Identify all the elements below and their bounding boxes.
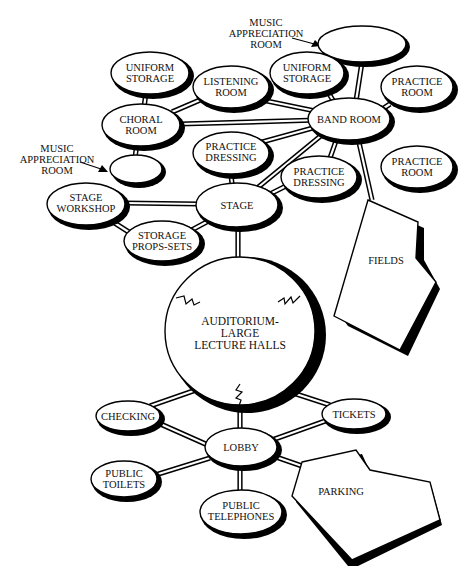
svg-text:UNIFORMSTORAGE: UNIFORMSTORAGE xyxy=(283,62,332,84)
node-tickets: TICKETS xyxy=(322,399,391,434)
svg-text:CHECKING: CHECKING xyxy=(101,411,156,422)
svg-text:UNIFORMSTORAGE: UNIFORMSTORAGE xyxy=(126,62,175,84)
svg-text:PRACTICEDRESSING: PRACTICEDRESSING xyxy=(205,141,257,163)
node-music-appreciation-left xyxy=(110,155,166,188)
svg-text:PRACTICEDRESSING: PRACTICEDRESSING xyxy=(293,166,345,188)
svg-text:STORAGEPROPS-SETS: STORAGEPROPS-SETS xyxy=(132,230,192,252)
node-public-toilets: PUBLICTOILETS xyxy=(91,461,162,502)
node-practice-dressing-2: PRACTICEDRESSING xyxy=(281,156,362,203)
node-practice-dressing-1: PRACTICEDRESSING xyxy=(193,132,274,179)
node-public-telephones: PUBLICTELEPHONES xyxy=(200,490,287,539)
node-stage: STAGE xyxy=(196,183,283,232)
svg-text:BAND ROOM: BAND ROOM xyxy=(317,114,382,125)
node-lobby: LOBBY xyxy=(205,428,282,471)
svg-text:TICKETS: TICKETS xyxy=(332,409,375,420)
node-listening-room: LISTENINGROOM xyxy=(193,66,274,113)
svg-text:LOBBY: LOBBY xyxy=(223,442,259,453)
node-fields: FIELDS xyxy=(334,200,440,356)
node-practice-room-2: PRACTICEROOM xyxy=(381,146,458,193)
node-uniform-storage-left: UNIFORMSTORAGE xyxy=(111,52,194,99)
node-band-room: BAND ROOM xyxy=(308,98,395,145)
music-appreciation-left-callout: MUSICAPPRECIATIONROOM xyxy=(20,143,95,176)
adjacency-diagram: MUSICAPPRECIATIONROOM UNIFORMSTORAGE LIS… xyxy=(0,0,469,582)
svg-text:FIELDS: FIELDS xyxy=(368,255,404,266)
node-stage-workshop: STAGEWORKSHOP xyxy=(47,183,130,230)
node-practice-room-1: PRACTICEROOM xyxy=(381,66,458,113)
node-auditorium: AUDITORIUM-LARGELECTURE HALLS xyxy=(165,257,326,413)
music-appreciation-top-callout: MUSICAPPRECIATIONROOM xyxy=(229,17,304,50)
svg-text:CHORALROOM: CHORALROOM xyxy=(119,114,162,136)
svg-text:PUBLICTOILETS: PUBLICTOILETS xyxy=(103,468,146,490)
svg-text:STAGE: STAGE xyxy=(221,200,254,211)
svg-text:PARKING: PARKING xyxy=(318,486,364,497)
node-parking: PARKING xyxy=(292,450,442,566)
